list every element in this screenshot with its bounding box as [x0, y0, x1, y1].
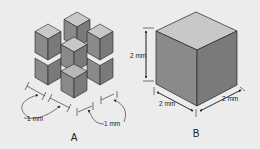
small-cube-left-top [35, 24, 61, 60]
figure-b-height-label: 2 mm [130, 52, 146, 59]
figure-a-cubes [35, 12, 113, 98]
figure-b-left-edge-label: 2 mm [159, 100, 175, 107]
figure-a-caption: A [71, 132, 78, 143]
figure-a-dim-left-label: 1 mm [27, 115, 43, 122]
figure-b-right-edge-label: 2 mm [222, 95, 238, 102]
figure-b-cube [156, 12, 237, 106]
figure-a-dim-right-label: 1 mm [104, 120, 120, 127]
diagram-canvas: 1 mm 1 mm A 2 mm 2 mm 2 mm B [0, 0, 260, 149]
figure-b-caption: B [193, 128, 200, 139]
small-cube-front-bottom [61, 64, 87, 98]
small-cube-right-bottom [87, 58, 113, 85]
cube-diagram: 1 mm 1 mm A 2 mm 2 mm 2 mm B [0, 0, 260, 149]
small-cube-left-bottom [35, 58, 61, 85]
small-cube-right-top [87, 24, 113, 60]
